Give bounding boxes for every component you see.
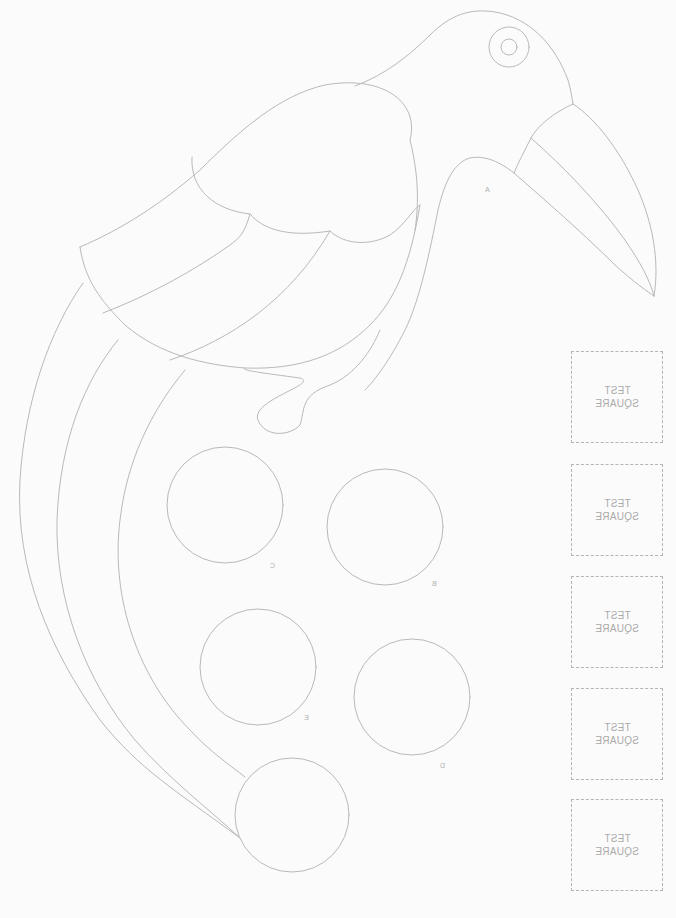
beak-base — [514, 104, 573, 173]
test-square-label-line1: TEST — [604, 721, 631, 734]
marker-d: D — [440, 762, 445, 769]
test-square-label-line2: SQUARE — [595, 622, 639, 635]
test-square-label-line2: SQUARE — [595, 510, 639, 523]
test-square-2: TEST SQUARE — [571, 464, 663, 556]
test-square-label-line2: SQUARE — [595, 734, 639, 747]
eye-inner-icon — [501, 39, 517, 55]
circle-d — [354, 639, 470, 755]
marker-b: B — [432, 580, 437, 587]
marker-c: C — [270, 562, 275, 569]
tail-arc-middle — [57, 340, 240, 838]
wing-stripe-2 — [170, 231, 330, 360]
test-square-label-line1: TEST — [604, 384, 631, 397]
marker-e: E — [304, 714, 309, 721]
test-square-3: TEST SQUARE — [571, 576, 663, 668]
circle-tail-end — [235, 758, 349, 872]
test-square-label-line1: TEST — [604, 609, 631, 622]
wing-scallop — [192, 157, 420, 242]
wing-stripe-1 — [103, 214, 250, 313]
test-square-label-line2: SQUARE — [595, 845, 639, 858]
test-square-5: TEST SQUARE — [571, 799, 663, 891]
test-square-label-line1: TEST — [604, 832, 631, 845]
circle-e — [200, 609, 316, 725]
test-square-label-line1: TEST — [604, 497, 631, 510]
neck-front — [365, 157, 514, 390]
test-square-label-line2: SQUARE — [595, 397, 639, 410]
eye-outer-icon — [489, 27, 529, 67]
beak-divider — [531, 138, 654, 296]
toucan-pattern-drawing — [0, 0, 676, 918]
circle-c — [167, 447, 283, 563]
tail-arc-inner — [118, 370, 245, 777]
wing-bottom — [80, 205, 420, 368]
test-square-1: TEST SQUARE — [571, 351, 663, 443]
circle-b — [327, 469, 443, 585]
wing-top — [80, 83, 417, 247]
beak-upper — [573, 104, 656, 296]
test-square-4: TEST SQUARE — [571, 688, 663, 780]
marker-a: A — [485, 186, 490, 193]
body-drip — [244, 330, 380, 433]
head-outline — [355, 11, 573, 104]
beak-lower — [514, 173, 654, 296]
